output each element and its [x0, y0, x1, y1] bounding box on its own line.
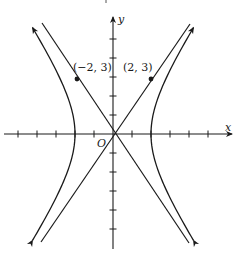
- point-label-2-3: (2, 3): [123, 61, 153, 74]
- x-axis-label: x: [225, 121, 232, 134]
- hyperbola-figure: (−2, 3) (2, 3) y x O: [0, 0, 242, 257]
- point-2-3: [149, 77, 154, 82]
- point-neg2-3: [75, 77, 80, 82]
- origin-label: O: [97, 137, 106, 150]
- y-axis-label: y: [117, 13, 125, 26]
- point-label-neg2-3: (−2, 3): [73, 61, 112, 74]
